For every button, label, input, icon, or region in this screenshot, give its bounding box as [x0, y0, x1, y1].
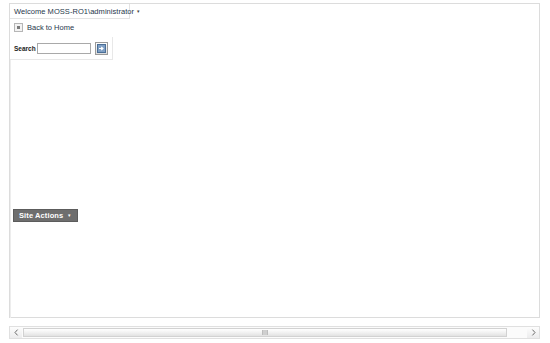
welcome-user-menu[interactable]: Welcome MOSS-RO1\administrator ▾: [10, 4, 130, 19]
horizontal-scrollbar[interactable]: [9, 326, 540, 339]
scroll-left-button[interactable]: [10, 327, 22, 338]
scroll-right-button[interactable]: [527, 327, 539, 338]
chevron-left-icon: [14, 329, 19, 336]
arrow-right-go-icon: [97, 44, 106, 53]
search-go-button[interactable]: [95, 42, 108, 55]
back-to-home-label: Back to Home: [27, 23, 74, 32]
chevron-down-icon: ▾: [68, 213, 71, 218]
back-to-home-link[interactable]: Back to Home: [10, 20, 130, 35]
scrollbar-track[interactable]: [22, 327, 527, 338]
scrollbar-thumb[interactable]: [23, 328, 507, 337]
small-square-icon: [14, 23, 23, 32]
search-label: Search: [14, 45, 36, 52]
left-column-divider: [10, 60, 11, 318]
site-actions-label: Site Actions: [19, 211, 63, 220]
chevron-down-icon: ▾: [137, 9, 140, 14]
site-actions-menu[interactable]: Site Actions ▾: [13, 209, 78, 222]
search-input[interactable]: [37, 43, 91, 54]
welcome-user-label: Welcome MOSS-RO1\administrator: [14, 7, 134, 16]
chevron-right-icon: [531, 329, 536, 336]
grip-icon: [262, 330, 268, 335]
search-area: Search: [10, 37, 113, 60]
page-content-frame: Welcome MOSS-RO1\administrator ▾ Back to…: [9, 3, 540, 318]
